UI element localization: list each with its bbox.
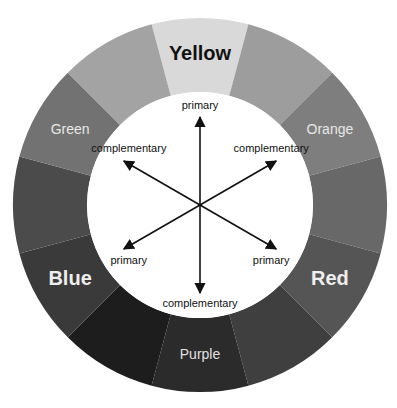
segment-label-yellow: Yellow (169, 42, 232, 64)
segment-label-orange: Orange (307, 121, 354, 137)
segment-label-blue: Blue (48, 267, 91, 289)
arrow-label-complementary: complementary (234, 142, 310, 154)
segment-label-green: Green (51, 121, 90, 137)
arrow-label-complementary: complementary (162, 297, 238, 309)
color-wheel-diagram: YellowOrangeRedPurpleBlueGreen primaryco… (0, 0, 397, 408)
arrow-label-complementary: complementary (91, 142, 167, 154)
segment-label-red: Red (311, 267, 349, 289)
arrow-label-primary: primary (182, 99, 219, 111)
arrow-label-primary: primary (253, 254, 290, 266)
segment-label-purple: Purple (180, 346, 221, 362)
arrow-label-primary: primary (110, 254, 147, 266)
